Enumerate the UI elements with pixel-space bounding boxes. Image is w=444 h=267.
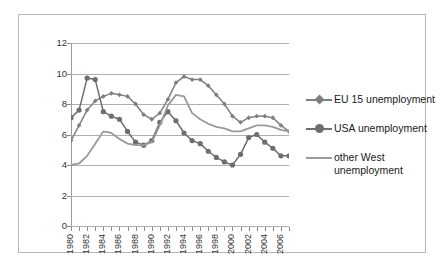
x-axis-tick-label: 2000 [227,234,236,254]
x-axis-tick-mark [87,227,88,231]
x-axis-tick-label: 1980 [66,234,75,254]
legend-label-usa: USA unemployment [332,122,427,135]
data-point-marker [109,91,114,96]
legend-marker-eu15-icon [306,94,332,106]
y-axis-tick-mark [67,43,71,44]
x-axis-tick-label: 1994 [179,234,188,254]
x-axis-tick-mark [136,227,137,231]
data-point-marker [117,92,122,97]
x-axis-tick-mark [103,227,104,231]
legend-marker-usa-icon [306,123,332,135]
x-axis-tick-mark [232,227,233,231]
x-axis-tick-mark [249,227,250,231]
x-axis-tick-label: 1990 [147,234,156,254]
data-point-marker [254,114,259,119]
x-axis-tick-mark [216,227,217,231]
x-axis-tick-mark [273,227,274,231]
x-axis-tick-mark [200,227,201,231]
legend-line-other-west-icon [306,157,332,159]
x-axis-tick-mark [71,227,72,231]
x-axis-tick-mark [160,227,161,231]
data-point-marker [262,114,267,119]
x-axis-tick-label: 2006 [276,234,285,254]
data-point-marker [85,75,90,80]
legend-marker-other-west-icon [306,152,332,164]
x-axis-tick-label: 2002 [244,234,253,254]
chart-frame: 024681012 EU 15 unemployment USA unemplo… [18,14,426,253]
data-point-marker [190,77,195,82]
y-axis-tick-label: 12 [41,38,67,48]
x-axis-tick-mark [265,227,266,231]
y-axis-tick-label: 0 [41,221,67,231]
data-point-marker [117,117,122,122]
x-axis-tick-mark [289,227,290,231]
x-axis-tick-mark [208,227,209,231]
series-lines [71,43,289,227]
x-axis-tick-label: 1986 [114,234,123,254]
series-line [71,78,289,165]
legend-item-eu15: EU 15 unemployment [306,93,438,106]
x-axis-tick-mark [95,227,96,231]
y-axis-tick-label: 4 [41,160,67,170]
data-point-marker [254,132,259,137]
data-point-marker [222,159,227,164]
legend-label-eu15: EU 15 unemployment [332,93,435,106]
chart-legend: EU 15 unemployment USA unemployment othe… [306,93,438,192]
data-point-marker [190,138,195,143]
legend-label-other-west: other West unemployment [332,151,438,176]
data-point-marker [278,153,283,158]
data-point-marker [206,149,211,154]
data-point-marker [214,155,219,160]
x-axis-tick-mark [168,227,169,231]
legend-diamond-eu15-icon [315,95,325,105]
y-axis-tick-mark [67,135,71,136]
x-axis-tick-mark [119,227,120,231]
y-axis-tick-mark [67,74,71,75]
x-axis-tick-mark [281,227,282,231]
x-axis-tick-mark [111,227,112,231]
series-line [71,95,289,165]
data-point-marker [125,129,130,134]
y-axis-labels: 024681012 [37,15,67,254]
data-point-marker [286,153,289,158]
data-point-marker [246,135,251,140]
legend-item-usa: USA unemployment [306,122,438,135]
data-point-marker [93,77,98,82]
data-point-marker [230,162,235,167]
x-axis-tick-mark [192,227,193,231]
x-axis-tick-label: 1988 [131,234,140,254]
data-point-marker [109,114,114,119]
data-point-marker [198,141,203,146]
y-axis-tick-mark [67,165,71,166]
x-axis-tick-mark [176,227,177,231]
chart-figure: 024681012 EU 15 unemployment USA unemplo… [0,0,444,267]
x-axis-tick-mark [257,227,258,231]
data-point-marker [262,140,267,145]
x-axis-tick-mark [144,227,145,231]
x-axis-tick-label: 1996 [195,234,204,254]
data-point-marker [270,146,275,151]
legend-item-other-west: other West unemployment [306,151,438,176]
x-axis-tick-label: 2004 [260,234,269,254]
y-axis-tick-label: 6 [41,130,67,140]
y-axis-tick-label: 2 [41,191,67,201]
x-axis-tick-mark [184,227,185,231]
y-axis-tick-mark [67,104,71,105]
x-axis-tick-label: 1998 [211,234,220,254]
x-axis-tick-label: 1984 [98,234,107,254]
data-point-marker [238,152,243,157]
x-axis-tick-mark [224,227,225,231]
x-axis-tick-mark [152,227,153,231]
legend-circle-usa-icon [315,124,324,133]
x-axis-tick-mark [241,227,242,231]
y-axis-tick-label: 10 [41,69,67,79]
data-point-marker [181,130,186,135]
data-point-marker [173,118,178,123]
x-axis-tick-label: 1992 [163,234,172,254]
x-axis-tick-label: 1982 [82,234,91,254]
x-axis-tick-mark [79,227,80,231]
data-point-marker [101,109,106,114]
y-axis-tick-label: 8 [41,99,67,109]
x-axis-tick-mark [128,227,129,231]
y-axis-tick-mark [67,196,71,197]
